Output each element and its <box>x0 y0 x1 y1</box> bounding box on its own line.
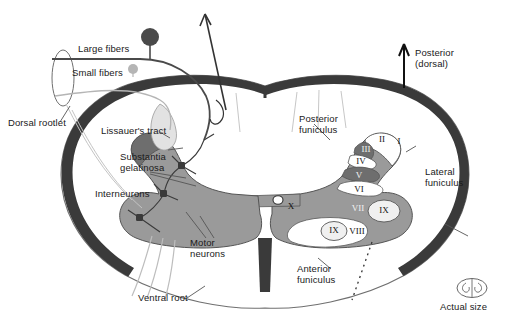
label-small-fibers: Small fibers <box>72 68 123 79</box>
label-lateral-funiculus: Lateral funiculus <box>425 167 463 188</box>
label-interneurons: Interneurons <box>95 189 150 200</box>
lamina-3: III <box>352 145 380 154</box>
posterior-direction-arrow <box>399 44 409 88</box>
lamina-5: V <box>345 171 373 180</box>
label-lissauers-tract: Lissauer's tract <box>101 126 166 137</box>
spinal-cord-diagram: Large fibers Small fibers Dorsal rootlet… <box>0 0 530 324</box>
label-ventral-root: Ventral root <box>138 293 188 304</box>
label-large-fibers: Large fibers <box>78 44 129 55</box>
label-motor-neurons: Motor neurons <box>190 238 225 259</box>
lamina-9a: IX <box>370 206 398 215</box>
lamina-4: IV <box>347 157 375 166</box>
lamina-7: VII <box>344 204 372 213</box>
lamina-10: X <box>277 202 305 211</box>
label-orientation-posterior-dorsal: Posterior (dorsal) <box>415 48 454 69</box>
large-fiber-terminal <box>141 28 159 46</box>
label-anterior-funiculus: Anterior funiculus <box>297 264 335 285</box>
lamina-2: II <box>368 135 396 144</box>
actual-size-inset <box>457 279 487 298</box>
label-substantia-gelatinosa: Substantia gelatinosa <box>120 152 166 173</box>
anterior-median-fissure <box>258 238 272 292</box>
label-actual-size: Actual size <box>440 302 487 313</box>
lamina-6: VI <box>345 185 373 194</box>
label-dorsal-rootlet: Dorsal rootlet <box>8 118 66 129</box>
small-fiber-terminal <box>128 64 138 74</box>
lamina-9b: IX <box>320 226 348 235</box>
label-posterior-funiculus: Posterior funiculus <box>299 114 338 135</box>
